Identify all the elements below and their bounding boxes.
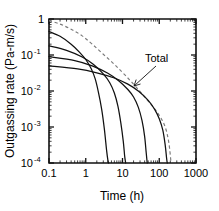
y-tick-label: 1 [38,13,44,25]
svg-text:10: 10 [21,157,33,169]
data-curves [49,21,171,163]
svg-text:-1: -1 [34,47,41,56]
total-annotation-label: Total [145,52,168,64]
svg-text:10: 10 [21,85,33,97]
x-tick-label: 1 [83,167,89,179]
svg-text:10: 10 [21,49,33,61]
y-tick-label: 10-4 [21,155,41,170]
y-axis-ticks [49,19,196,163]
y-tick-label: 10-1 [21,47,41,62]
x-tick-label: 0.1 [41,167,56,179]
x-tick-label: 1000 [184,167,208,179]
svg-text:-4: -4 [34,155,41,164]
svg-text:10: 10 [21,121,33,133]
curve-total [49,21,171,163]
x-tick-label: 10 [116,167,128,179]
curve-component-2 [49,46,126,163]
chart-canvas: Total 0.11101001000 110-110-210-310-4 Ti… [0,0,219,211]
x-axis-ticks [49,19,196,163]
y-tick-label: 10-2 [21,83,41,98]
total-annotation-arrow [134,66,156,86]
svg-text:-3: -3 [34,119,41,128]
y-tick-labels: 110-110-210-310-4 [21,13,44,169]
plot-frame [49,19,196,163]
y-axis-title: Outgassing rate (Pa-m/s) [3,24,17,158]
x-tick-labels: 0.11101001000 [41,167,208,179]
x-axis-title: Time (h) [100,189,144,203]
chart-figure: Total 0.11101001000 110-110-210-310-4 Ti… [0,0,219,211]
x-tick-label: 100 [150,167,168,179]
y-tick-label: 10-3 [21,119,41,134]
svg-text:1: 1 [38,13,44,25]
svg-text:-2: -2 [34,83,41,92]
